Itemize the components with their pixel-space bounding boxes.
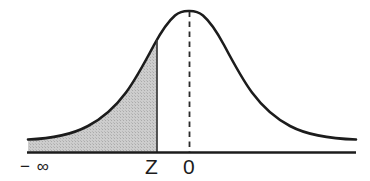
normal-distribution-figure: − ∞ Z 0 [0,0,370,181]
axis-label-negative-infinity: − ∞ [20,158,50,175]
shaded-tail-region [28,11,189,152]
normal-curve-path [28,11,356,140]
distribution-curve-svg [0,0,370,181]
axis-label-z: Z [145,156,158,177]
axis-label-zero: 0 [183,156,195,177]
